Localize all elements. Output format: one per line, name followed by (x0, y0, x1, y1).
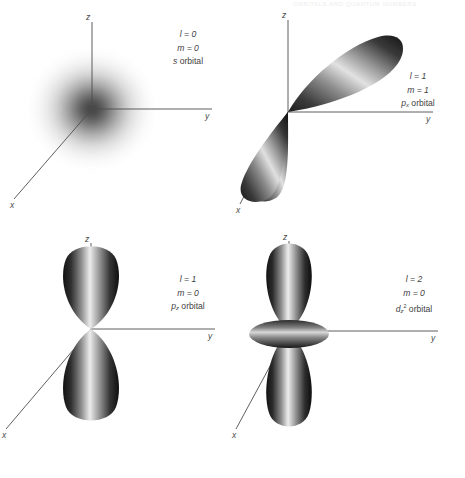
px-orbital-lobes (241, 36, 403, 202)
panel-dz2-orbital: z y x l = 2 m = 0 dz2 orbital (228, 235, 460, 463)
y-axis-label: y (426, 114, 430, 124)
y-axis-label: y (205, 111, 209, 121)
m-value-px: m = 1 (380, 84, 456, 98)
x-axis-label: x (232, 430, 236, 440)
panel-px-orbital: z y x l = 1 m = 1 px orbital (228, 8, 460, 236)
orbital-name-pz: pz orbital (150, 300, 226, 316)
dz2-equatorial-torus (249, 320, 329, 348)
label-block-pz: l = 1 m = 0 pz orbital (150, 273, 226, 316)
m-value-dz2: m = 0 (374, 287, 454, 301)
y-axis-label: y (208, 331, 212, 341)
z-axis-label: z (86, 12, 90, 22)
pz-orbital-lobes (63, 246, 119, 420)
z-axis-label: z (85, 234, 89, 244)
pz-lower-lobe (63, 329, 119, 421)
pz-upper-lobe (63, 246, 119, 329)
l-value-pz: l = 1 (150, 273, 226, 287)
label-block-s: l = 0 m = 0 s orbital (150, 28, 226, 69)
x-axis-label: x (236, 205, 240, 215)
axes-pz (0, 235, 232, 463)
l-value-px: l = 1 (380, 70, 456, 84)
panel-s-orbital: z y x l = 0 m = 0 s orbital (0, 8, 232, 236)
m-value-pz: m = 0 (150, 287, 226, 301)
z-axis-label: z (282, 10, 286, 20)
panel-pz-orbital: z y x l = 1 m = 0 pz orbital (0, 235, 232, 463)
y-axis-label: y (431, 333, 435, 343)
dz2-upper-lobe (266, 244, 312, 332)
l-value-s: l = 0 (150, 28, 226, 42)
running-head: ORBITALS AND QUANTUM NUMBERS (255, 1, 455, 7)
z-axis-label: z (283, 232, 287, 242)
dz2-orbital-shape (249, 244, 329, 427)
orbital-name-px: px orbital (380, 97, 456, 113)
label-block-dz2: l = 2 m = 0 dz2 orbital (374, 273, 454, 319)
x-axis-label: x (10, 200, 14, 210)
m-value-s: m = 0 (150, 42, 226, 56)
orbital-figure: ORBITALS AND QUANTUM NUMBERS (0, 0, 465, 478)
orbital-name-dz2: dz2 orbital (374, 300, 454, 319)
l-value-dz2: l = 2 (374, 273, 454, 287)
orbital-name-s: s orbital (150, 55, 226, 69)
label-block-px: l = 1 m = 1 px orbital (380, 70, 456, 113)
axes-dz2 (228, 235, 460, 463)
x-axis-label: x (2, 430, 6, 440)
